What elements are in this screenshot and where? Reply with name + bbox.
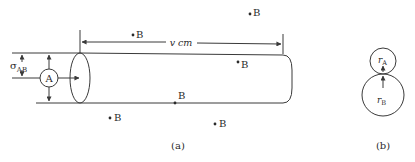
- figure-b: rA rB (b): [362, 48, 404, 151]
- figure-a: σAB A v cm B B B B: [10, 7, 292, 151]
- length-label: v cm: [170, 37, 193, 48]
- b-point: B: [132, 29, 144, 40]
- b-point-dot: [132, 34, 135, 37]
- b-point-label: B: [241, 59, 248, 70]
- cylinder-body: [80, 53, 292, 103]
- b-point: B: [249, 7, 261, 18]
- b-point-label: B: [219, 118, 226, 129]
- b-point-dot: [249, 13, 252, 16]
- b-point-dot: [214, 123, 217, 126]
- b-point: B: [237, 59, 249, 70]
- b-point-label: B: [253, 7, 260, 18]
- b-point-dot: [237, 61, 240, 64]
- b-point: B: [109, 112, 122, 123]
- b-point-label: B: [114, 112, 121, 123]
- particle-a-label: A: [44, 73, 53, 84]
- b-point-dot: [109, 117, 112, 120]
- b-point-label: B: [178, 90, 185, 101]
- b-point-dot: [174, 102, 177, 105]
- b-point: B: [174, 90, 186, 104]
- radius-b-label: rB: [377, 95, 386, 107]
- collision-cylinder-diagram: σAB A v cm B B B B: [0, 0, 415, 162]
- b-point: B: [214, 118, 227, 129]
- caption-b: (b): [376, 140, 390, 151]
- b-point-label: B: [136, 29, 143, 40]
- sigma-ab-label: σAB: [10, 60, 27, 74]
- length-arrow-right: [197, 43, 281, 44]
- caption-a: (a): [171, 140, 185, 151]
- radius-a-label: rA: [378, 55, 387, 67]
